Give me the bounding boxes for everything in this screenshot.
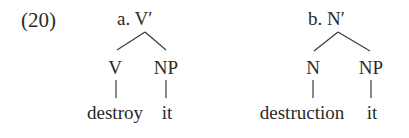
branch-line	[145, 32, 166, 50]
branch-line	[314, 32, 338, 51]
branch-line	[117, 32, 145, 50]
tree-branches	[0, 0, 409, 138]
branch-line	[338, 32, 370, 51]
